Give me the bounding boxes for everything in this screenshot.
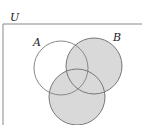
set-a-label: A (32, 36, 41, 49)
set-b-label: B (112, 31, 121, 44)
universe-label: U (10, 11, 20, 24)
venn-diagram: U A B (0, 0, 142, 125)
shaded-region (49, 38, 122, 125)
